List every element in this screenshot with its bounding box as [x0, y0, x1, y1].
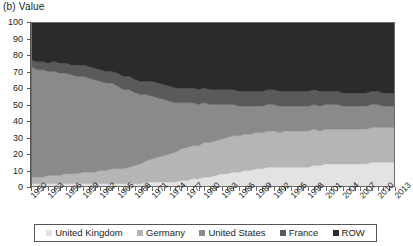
- legend-label: United States: [208, 228, 265, 238]
- legend-swatch-icon: [46, 230, 52, 236]
- y-axis: 1009080706050403020100: [0, 22, 28, 187]
- y-axis-tick-mark: [27, 138, 31, 139]
- y-axis-tick-label: 10: [0, 166, 28, 175]
- plot-area: [31, 22, 395, 187]
- legend-item-united-states[interactable]: United States: [199, 228, 265, 238]
- legend-item-united-kingdom[interactable]: United Kingdom: [46, 228, 123, 238]
- y-axis-tick-label: 50: [0, 100, 28, 109]
- x-axis-tick-label: 2013: [393, 181, 413, 201]
- chart-legend: United KingdomGermanyUnited StatesFrance…: [34, 224, 377, 242]
- y-axis-tick-label: 30: [0, 133, 28, 142]
- legend-swatch-icon: [333, 230, 339, 236]
- legend-item-germany[interactable]: Germany: [137, 228, 185, 238]
- y-axis-tick-mark: [27, 105, 31, 106]
- y-axis-tick-mark: [27, 154, 31, 155]
- y-axis-tick-mark: [27, 171, 31, 172]
- page-title: (b) Value: [3, 1, 45, 12]
- y-axis-tick-label: 60: [0, 84, 28, 93]
- stacked-area-chart: [31, 22, 395, 187]
- legend-swatch-icon: [280, 230, 286, 236]
- y-axis-tick-mark: [27, 187, 31, 188]
- y-axis-tick-mark: [27, 72, 31, 73]
- y-axis-tick-label: 90: [0, 34, 28, 43]
- legend-label: United Kingdom: [55, 228, 123, 238]
- y-axis-tick-mark: [27, 88, 31, 89]
- legend-label: France: [289, 228, 319, 238]
- y-axis-tick-mark: [27, 39, 31, 40]
- y-axis-tick-label: 100: [0, 18, 28, 27]
- legend-swatch-icon: [199, 230, 205, 236]
- y-axis-tick-mark: [27, 121, 31, 122]
- legend-label: Germany: [146, 228, 185, 238]
- y-axis-tick-mark: [27, 55, 31, 56]
- y-axis-tick-label: 70: [0, 67, 28, 76]
- legend-swatch-icon: [137, 230, 143, 236]
- y-axis-tick-label: 80: [0, 51, 28, 60]
- legend-label: ROW: [342, 228, 365, 238]
- y-axis-tick-mark: [27, 22, 31, 23]
- y-axis-tick-label: 40: [0, 117, 28, 126]
- y-axis-tick-label: 20: [0, 150, 28, 159]
- legend-item-france[interactable]: France: [280, 228, 319, 238]
- legend-item-row[interactable]: ROW: [333, 228, 365, 238]
- x-axis-labels: 1950195319561959196219651968197119741977…: [0, 188, 406, 220]
